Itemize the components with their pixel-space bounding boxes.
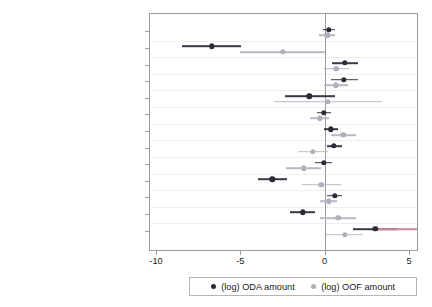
gridline — [150, 140, 417, 141]
gridline — [150, 124, 417, 125]
estimate-point — [341, 77, 346, 82]
gridline — [150, 74, 417, 75]
estimate-point — [341, 132, 346, 137]
x-axis-tick — [409, 251, 410, 255]
estimate-point — [335, 215, 340, 220]
estimate-point — [342, 60, 347, 65]
estimate-point — [325, 99, 330, 104]
legend-item-oda: (log) ODA amount — [211, 282, 295, 292]
circle-marker-icon — [211, 284, 216, 289]
estimate-point — [332, 193, 337, 198]
legend-item-oof: (log) OOF amount — [311, 282, 395, 292]
gridline — [150, 41, 417, 42]
x-axis-tick — [240, 251, 241, 255]
x-axis-tick-label: -10 — [149, 256, 162, 266]
estimate-point — [307, 93, 312, 98]
estimate-point — [331, 143, 336, 148]
x-axis-tick — [325, 251, 326, 255]
plot-inner — [150, 14, 417, 250]
x-axis-tick — [156, 251, 157, 255]
estimate-point — [324, 33, 329, 38]
plot-area — [149, 13, 418, 251]
legend-label-oda: (log) ODA amount — [221, 282, 295, 292]
estimate-point — [326, 199, 331, 204]
gridline — [150, 174, 417, 175]
estimate-point — [319, 182, 324, 187]
gridline — [150, 157, 417, 158]
estimate-point — [317, 116, 322, 121]
estimate-point — [301, 166, 306, 171]
diamond-marker-icon — [311, 284, 316, 289]
estimate-point — [300, 210, 305, 215]
x-axis-tick-label: 5 — [406, 256, 411, 266]
confidence-interval-overflow — [375, 228, 417, 230]
gridline — [150, 223, 417, 224]
gridline — [150, 207, 417, 208]
estimate-point — [310, 149, 315, 154]
gridline — [150, 107, 417, 108]
gridline — [150, 190, 417, 191]
x-axis-tick-label: 0 — [322, 256, 327, 266]
estimate-point — [209, 44, 214, 49]
gridline — [150, 57, 417, 58]
zero-reference-line — [325, 14, 326, 250]
chart-legend: (log) ODA amount (log) OOF amount — [189, 277, 417, 296]
estimate-point — [333, 82, 338, 87]
estimate-point — [280, 49, 285, 54]
estimate-point — [334, 66, 339, 71]
estimate-point — [270, 177, 275, 182]
legend-label-oof: (log) OOF amount — [321, 282, 395, 292]
estimate-point — [326, 27, 331, 32]
estimate-point — [321, 160, 326, 165]
estimate-point — [373, 226, 378, 231]
gridline — [150, 90, 417, 91]
estimate-point — [321, 110, 326, 115]
estimate-point — [328, 127, 333, 132]
coefficient-plot: UN voting with ChinaTaiwan recognitionHi… — [0, 0, 432, 307]
estimate-point — [342, 232, 347, 237]
x-axis-tick-label: -5 — [236, 256, 244, 266]
